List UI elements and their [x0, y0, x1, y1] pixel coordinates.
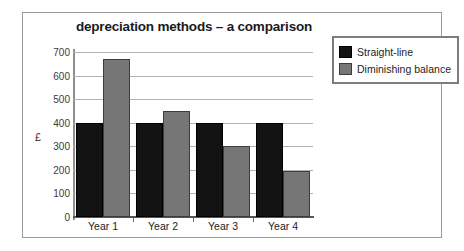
bar-year-2-straight-line [136, 123, 163, 217]
y-axis-tick-label: 200 [53, 164, 70, 175]
y-axis-tick-label: 400 [53, 117, 70, 128]
legend-swatch-icon [339, 63, 352, 75]
x-axis-tick-mark [133, 218, 134, 222]
bar-year-2-diminishing-balance [163, 111, 190, 217]
y-axis-tick-label: 600 [53, 70, 70, 81]
x-axis-tick-mark [193, 218, 194, 222]
legend-label: Straight-line [357, 46, 413, 58]
y-axis-tick-label: 300 [53, 141, 70, 152]
x-axis-tick-label: Year 3 [193, 220, 253, 232]
legend-item: Diminishing balance [339, 60, 451, 77]
chart-legend: Straight-lineDiminishing balance [332, 36, 459, 84]
bar-group [196, 52, 250, 217]
x-axis-tick-mark [253, 218, 254, 222]
y-axis-tick-label: 100 [53, 188, 70, 199]
bar-group [136, 52, 190, 217]
bar-year-3-diminishing-balance [223, 146, 250, 217]
y-axis-tick-label: 0 [64, 212, 70, 223]
bar-year-1-straight-line [76, 123, 103, 217]
plot-area [73, 52, 313, 217]
chart-frame: depreciation methods – a comparison £ 70… [22, 12, 442, 238]
x-axis-tick-label: Year 1 [73, 220, 133, 232]
y-axis-tick-labels: 7006005004003002001000 [23, 52, 70, 217]
bar-group [76, 52, 130, 217]
bar-group [256, 52, 310, 217]
legend-label: Diminishing balance [357, 63, 451, 75]
x-axis-tick-label: Year 4 [253, 220, 313, 232]
chart-title: depreciation methods – a comparison [59, 19, 329, 34]
legend-swatch-icon [339, 46, 352, 58]
y-axis-tick-label: 500 [53, 94, 70, 105]
bar-year-4-straight-line [256, 123, 283, 217]
x-axis-tick-label: Year 2 [133, 220, 193, 232]
legend-item: Straight-line [339, 43, 451, 60]
bar-year-3-straight-line [196, 123, 223, 217]
bar-year-4-diminishing-balance [283, 171, 310, 217]
y-axis-tick-label: 700 [53, 47, 70, 58]
bar-year-1-diminishing-balance [103, 59, 130, 217]
